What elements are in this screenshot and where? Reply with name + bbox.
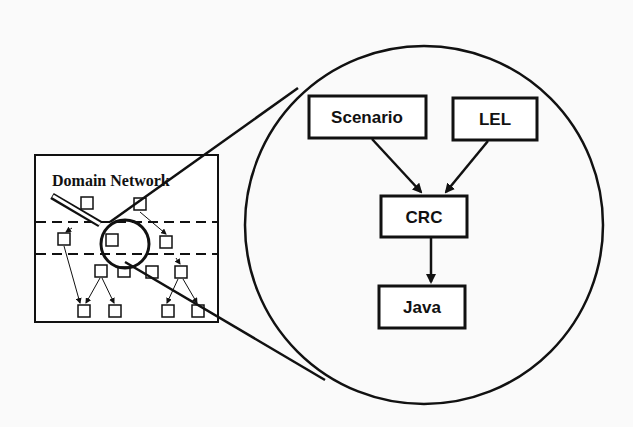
svg-text:Scenario: Scenario — [331, 108, 403, 127]
edge-lel-crc — [446, 141, 488, 192]
edge-scenario-crc — [372, 139, 421, 192]
node-java: Java — [379, 286, 465, 328]
zoomed-view: Scenario LEL CRC Java — [245, 46, 603, 404]
domain-network-title: Domain Network — [52, 172, 170, 189]
svg-text:LEL: LEL — [479, 110, 511, 129]
svg-text:CRC: CRC — [406, 208, 443, 227]
node-scenario: Scenario — [309, 96, 426, 138]
node-lel: LEL — [453, 98, 537, 140]
domain-network-panel: Domain Network — [35, 155, 218, 322]
svg-text:Java: Java — [403, 298, 441, 317]
node-crc: CRC — [381, 196, 467, 237]
diagram-canvas: Domain Network — [0, 0, 633, 427]
